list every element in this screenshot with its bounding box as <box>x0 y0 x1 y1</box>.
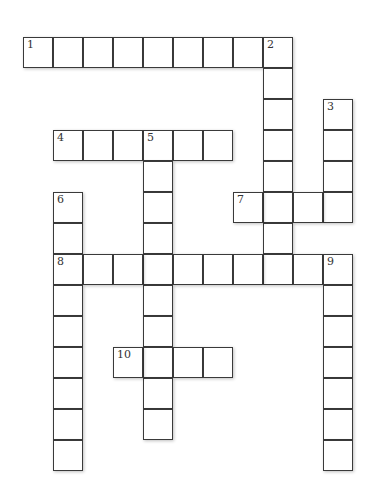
crossword-cell[interactable] <box>143 409 173 440</box>
crossword-cell[interactable] <box>293 192 323 223</box>
crossword-cell[interactable]: 10 <box>113 347 143 378</box>
clue-number: 8 <box>57 256 64 268</box>
crossword-cell[interactable]: 2 <box>263 37 293 68</box>
clue-number: 9 <box>327 256 334 268</box>
crossword-cell[interactable] <box>203 347 233 378</box>
crossword-cell[interactable] <box>143 37 173 68</box>
crossword-cell[interactable] <box>53 409 83 440</box>
crossword-cell[interactable] <box>203 254 233 285</box>
crossword-cell[interactable] <box>263 68 293 99</box>
crossword-cell[interactable] <box>203 37 233 68</box>
crossword-cell[interactable] <box>263 192 293 223</box>
crossword-cell[interactable] <box>83 130 113 161</box>
crossword-cell[interactable] <box>83 37 113 68</box>
crossword-cell[interactable] <box>323 316 353 347</box>
crossword-cell[interactable] <box>233 254 263 285</box>
crossword-cell[interactable]: 3 <box>323 99 353 130</box>
crossword-cell[interactable] <box>263 254 293 285</box>
clue-number: 10 <box>117 349 131 361</box>
crossword-cell[interactable] <box>173 130 203 161</box>
crossword-cell[interactable] <box>323 378 353 409</box>
crossword-cell[interactable] <box>173 37 203 68</box>
crossword-cell[interactable] <box>293 254 323 285</box>
crossword-cell[interactable] <box>173 347 203 378</box>
crossword-cell[interactable] <box>143 316 173 347</box>
crossword-cell[interactable] <box>143 378 173 409</box>
crossword-cell[interactable]: 5 <box>143 130 173 161</box>
crossword-cell[interactable] <box>263 161 293 192</box>
crossword-cell[interactable] <box>143 285 173 316</box>
crossword-cell[interactable] <box>263 223 293 254</box>
crossword-cell[interactable]: 8 <box>53 254 83 285</box>
crossword-cell[interactable] <box>53 316 83 347</box>
crossword-cell[interactable] <box>143 347 173 378</box>
crossword-cell[interactable]: 6 <box>53 192 83 223</box>
crossword-cell[interactable] <box>203 130 233 161</box>
crossword-cell[interactable]: 4 <box>53 130 83 161</box>
clue-number: 2 <box>267 39 274 51</box>
crossword-cell[interactable] <box>323 285 353 316</box>
crossword-cell[interactable] <box>53 37 83 68</box>
crossword-cell[interactable] <box>113 254 143 285</box>
crossword-cell[interactable]: 9 <box>323 254 353 285</box>
crossword-cell[interactable] <box>323 161 353 192</box>
crossword-cell[interactable] <box>113 130 143 161</box>
crossword-cell[interactable] <box>53 285 83 316</box>
clue-number: 1 <box>27 39 34 51</box>
crossword-cell[interactable] <box>143 192 173 223</box>
clue-number: 6 <box>57 194 64 206</box>
clue-number: 3 <box>327 101 334 113</box>
crossword-cell[interactable] <box>233 37 263 68</box>
crossword-cell[interactable] <box>263 130 293 161</box>
crossword-cell[interactable] <box>323 130 353 161</box>
crossword-cell[interactable] <box>83 254 113 285</box>
crossword-cell[interactable] <box>173 254 203 285</box>
crossword-cell[interactable] <box>143 161 173 192</box>
crossword-cell[interactable]: 7 <box>233 192 263 223</box>
crossword-cell[interactable] <box>323 440 353 471</box>
crossword-cell[interactable]: 1 <box>23 37 53 68</box>
crossword-cell[interactable] <box>323 192 353 223</box>
crossword-cell[interactable] <box>53 223 83 254</box>
crossword-cell[interactable] <box>53 378 83 409</box>
crossword-cell[interactable] <box>143 223 173 254</box>
crossword-cell[interactable] <box>263 99 293 130</box>
clue-number: 5 <box>147 132 154 144</box>
clue-number: 7 <box>237 194 244 206</box>
crossword-cell[interactable] <box>143 254 173 285</box>
clue-number: 4 <box>57 132 64 144</box>
crossword-cell[interactable] <box>323 347 353 378</box>
crossword-cell[interactable] <box>53 347 83 378</box>
crossword-cell[interactable] <box>323 409 353 440</box>
crossword-cell[interactable] <box>113 37 143 68</box>
crossword-cell[interactable] <box>53 440 83 471</box>
